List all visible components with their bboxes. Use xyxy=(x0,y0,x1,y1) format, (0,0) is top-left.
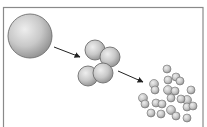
small-sphere xyxy=(189,102,197,110)
small-sphere xyxy=(158,100,166,108)
arrow-icon xyxy=(118,71,143,82)
small-sphere xyxy=(183,114,191,122)
small-spheres-group xyxy=(139,65,198,122)
medium-sphere xyxy=(93,63,113,83)
small-sphere xyxy=(176,77,184,85)
small-sphere xyxy=(147,109,155,117)
small-sphere xyxy=(187,86,195,94)
small-sphere xyxy=(151,86,159,94)
small-sphere xyxy=(177,95,185,103)
small-sphere xyxy=(163,65,171,73)
medium-spheres-group xyxy=(78,40,120,86)
small-sphere xyxy=(141,100,149,108)
small-sphere xyxy=(172,112,180,120)
large-sphere-group xyxy=(8,14,52,58)
diagram-canvas xyxy=(0,0,207,127)
arrow-icon xyxy=(54,47,80,57)
small-sphere xyxy=(167,94,175,102)
fragmentation-diagram xyxy=(0,0,207,127)
small-sphere xyxy=(164,76,172,84)
large-sphere xyxy=(8,14,52,58)
small-sphere xyxy=(171,87,179,95)
small-sphere xyxy=(157,110,165,118)
